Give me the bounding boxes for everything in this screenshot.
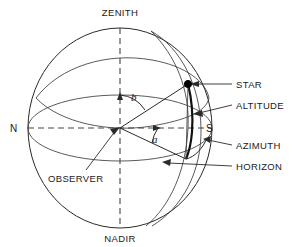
angle-b-arrowhead <box>117 92 123 100</box>
angle-b-label: b <box>131 91 137 103</box>
diagram-page: ZENITH NADIR N S OBSERVER STAR ALTITUDE … <box>0 0 298 247</box>
altitude-arrowhead <box>193 110 203 117</box>
altitude-leader-line <box>199 105 232 113</box>
horizon-leader-line <box>168 163 232 166</box>
horizon-label: HORIZON <box>236 161 282 172</box>
south-label: S <box>206 123 213 134</box>
star-point <box>184 80 191 87</box>
horizon-arrowhead <box>162 159 171 166</box>
nadir-label: NADIR <box>104 233 135 244</box>
azimuth-leader-line <box>208 140 232 145</box>
north-label: N <box>10 123 17 134</box>
star-to-foot-chord <box>186 84 188 159</box>
celestial-sphere-diagram: ZENITH NADIR N S OBSERVER STAR ALTITUDE … <box>0 0 298 247</box>
observer-label: OBSERVER <box>48 173 103 184</box>
observer-leader-line <box>86 130 116 170</box>
altitude-label: ALTITUDE <box>236 100 284 111</box>
azimuth-label: AZIMUTH <box>236 140 281 151</box>
angle-a-label: a <box>152 133 158 145</box>
zenith-label: ZENITH <box>102 7 138 18</box>
star-label: STAR <box>236 79 262 90</box>
